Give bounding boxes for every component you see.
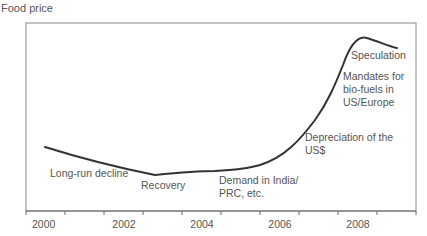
svg-text:US/Europe: US/Europe: [343, 96, 395, 108]
tick-label-2004: 2004: [190, 218, 214, 230]
svg-text:Depreciation of the: Depreciation of the: [305, 131, 393, 143]
svg-text:US$: US$: [305, 144, 326, 156]
svg-text:bio-fuels in: bio-fuels in: [343, 83, 394, 95]
tick-label-2006: 2006: [268, 218, 292, 230]
x-axis-ticks: [26, 211, 416, 215]
annotation-speculation: Speculation: [351, 49, 406, 61]
x-axis-tick-labels: 2000 2002 2004 2006 2008: [32, 218, 370, 230]
annotation-recovery: Recovery: [141, 179, 186, 191]
annotation-long-run-decline: Long-run decline: [50, 167, 128, 179]
y-axis-label: Food price: [1, 2, 53, 14]
food-price-chart: Food price 2000 2002 2004 2006 2008 Long…: [0, 0, 427, 236]
svg-text:Mandates for: Mandates for: [343, 70, 405, 82]
annotation-demand: Demand in India/ PRC, etc.: [219, 174, 298, 199]
svg-text:Demand in India/: Demand in India/: [219, 174, 298, 186]
annotation-mandates: Mandates for bio-fuels in US/Europe: [343, 70, 405, 108]
tick-label-2000: 2000: [32, 218, 56, 230]
annotation-depreciation: Depreciation of the US$: [305, 131, 393, 156]
tick-label-2008: 2008: [346, 218, 370, 230]
svg-text:PRC, etc.: PRC, etc.: [219, 187, 264, 199]
tick-label-2002: 2002: [112, 218, 136, 230]
